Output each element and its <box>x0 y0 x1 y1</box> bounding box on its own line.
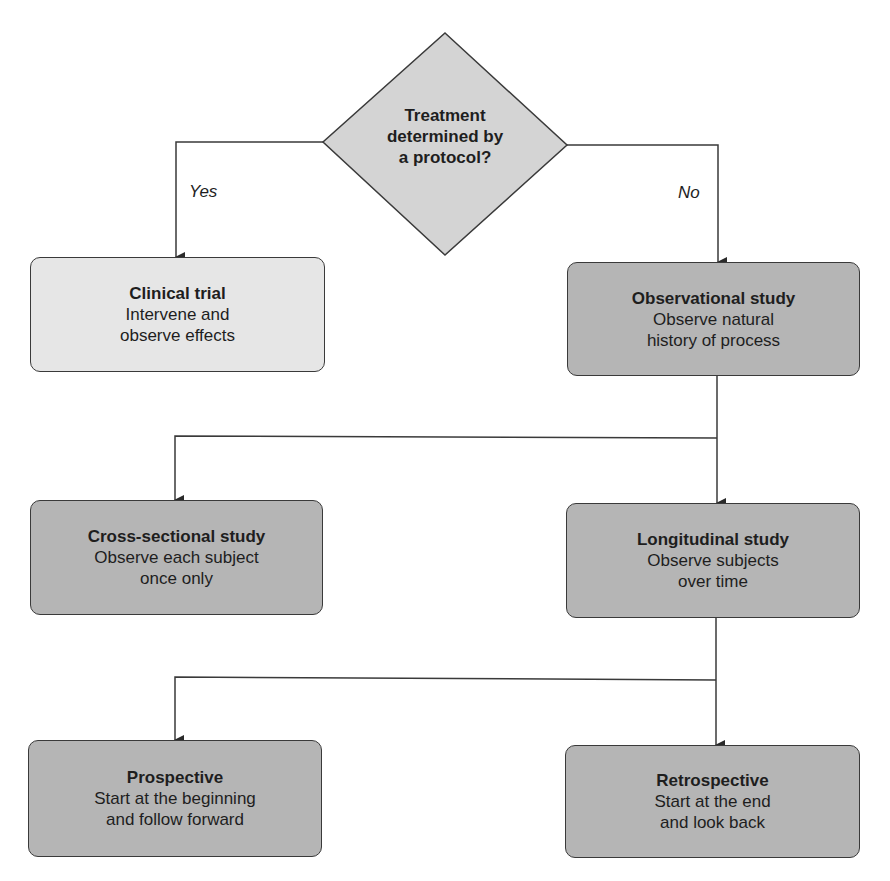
node-title: Longitudinal study <box>637 529 789 550</box>
decision-question: Treatment determined by a protocol? <box>345 105 545 168</box>
decision-line-3: a protocol? <box>345 147 545 168</box>
node-desc: and look back <box>660 812 765 833</box>
node-title: Prospective <box>127 767 223 788</box>
node-desc: Observe subjects <box>647 550 778 571</box>
node-desc: Intervene and <box>126 304 230 325</box>
no-connector <box>567 145 718 262</box>
node-desc: Start at the end <box>654 791 770 812</box>
node-desc: over time <box>678 571 748 592</box>
node-desc: Observe natural <box>653 309 774 330</box>
node-retrospective: Retrospective Start at the end and look … <box>565 745 860 858</box>
node-title: Clinical trial <box>129 283 225 304</box>
node-observational-study: Observational study Observe natural hist… <box>567 262 860 376</box>
node-cross-sectional-study: Cross-sectional study Observe each subje… <box>30 500 323 615</box>
node-title: Retrospective <box>656 770 768 791</box>
node-clinical-trial: Clinical trial Intervene and observe eff… <box>30 257 325 372</box>
node-title: Cross-sectional study <box>88 526 266 547</box>
node-desc: Observe each subject <box>94 547 258 568</box>
node-prospective: Prospective Start at the beginning and f… <box>28 740 322 857</box>
decision-line-2: determined by <box>345 126 545 147</box>
cross-sectional-connector <box>175 436 717 500</box>
prospective-connector <box>175 677 716 740</box>
node-longitudinal-study: Longitudinal study Observe subjects over… <box>566 503 860 618</box>
node-desc: once only <box>140 568 213 589</box>
node-title: Observational study <box>632 288 795 309</box>
node-desc: observe effects <box>120 325 235 346</box>
node-desc: history of process <box>647 330 780 351</box>
node-desc: and follow forward <box>106 809 244 830</box>
decision-line-1: Treatment <box>345 105 545 126</box>
node-desc: Start at the beginning <box>94 788 256 809</box>
no-label: No <box>678 183 700 203</box>
yes-label: Yes <box>189 182 217 202</box>
